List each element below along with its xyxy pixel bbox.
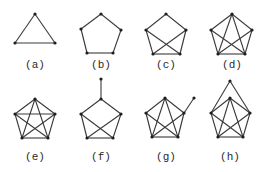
graph-vertex (46, 136, 49, 139)
graph-edge (211, 113, 218, 137)
graph-vertex (99, 97, 102, 100)
graph-vertex (184, 28, 187, 31)
panel-label-f: (f) (91, 151, 111, 163)
graph-vertex (33, 97, 36, 100)
graph-vertex (228, 79, 231, 82)
edges-f (81, 79, 121, 138)
graph-vertex (13, 41, 16, 44)
panel-label-b: (b) (91, 59, 111, 71)
vertices-e (13, 97, 56, 139)
graph-vertex (111, 51, 114, 54)
vertices-a (13, 12, 56, 44)
graph-vertex (119, 28, 122, 31)
graph-edge (113, 114, 121, 138)
panel-g: (g) (144, 96, 195, 163)
panel-label-h: (h) (220, 151, 240, 163)
graph-vertex (216, 135, 219, 138)
graph-vertex (119, 112, 122, 115)
panel-label-g: (g) (156, 151, 176, 163)
graph-edge (22, 114, 55, 138)
graph-edge (166, 14, 186, 30)
panel-d: (d) (209, 12, 253, 71)
graph-edge (230, 98, 243, 137)
graph-edge (48, 114, 55, 138)
panel-h: (h) (209, 79, 251, 163)
graph-vertex (85, 136, 88, 139)
graph-vertex (53, 112, 56, 115)
graph-vertex (228, 96, 231, 99)
graph-vertex (99, 77, 102, 80)
graph-vertex (13, 112, 16, 115)
graph-edge (211, 30, 245, 54)
graph-vertex (99, 12, 102, 15)
graph-vertex (33, 12, 36, 15)
graph-vertex (182, 111, 185, 114)
graph-vertex (150, 135, 153, 138)
graph-vertex (111, 136, 114, 139)
graph-figure: (a) (b) (c) (d) (e) (f) (0, 0, 267, 172)
graph-edge (15, 14, 35, 43)
graph-vertex (85, 51, 88, 54)
edges-a (15, 14, 55, 43)
graph-vertex (216, 52, 219, 55)
graph-vertex (151, 52, 154, 55)
graph-vertex (243, 52, 246, 55)
graph-vertex (163, 96, 166, 99)
panel-a: (a) (13, 12, 56, 71)
graph-vertex (79, 112, 82, 115)
graph-edge (146, 14, 166, 30)
graph-vertex (250, 28, 253, 31)
graph-vertex (53, 41, 56, 44)
graph-edge (81, 29, 87, 53)
graph-edge (152, 98, 165, 137)
graph-edge (218, 113, 250, 137)
graph-vertex (209, 111, 212, 114)
graph-edge (35, 14, 55, 43)
graph-vertex (192, 96, 195, 99)
panel-e: (e) (13, 97, 56, 163)
edges-g (146, 98, 194, 137)
panel-label-a: (a) (25, 59, 45, 71)
graph-edge (113, 30, 121, 53)
edges-c (146, 14, 186, 54)
panel-c: (c) (144, 12, 187, 71)
graph-vertex (164, 12, 167, 15)
graph-edge (15, 114, 22, 138)
graph-vertex (144, 28, 147, 31)
graph-vertex (144, 111, 147, 114)
edges-d (211, 14, 252, 54)
graph-edge (243, 113, 250, 137)
panel-label-c: (c) (156, 59, 176, 71)
graph-edge (87, 114, 121, 138)
graph-edge (81, 14, 101, 29)
graph-vertex (230, 12, 233, 15)
graph-edge (218, 98, 230, 137)
graph-edge (101, 99, 121, 114)
panel-f: (f) (79, 77, 122, 163)
edges-b (81, 14, 121, 53)
graph-vertex (248, 111, 251, 114)
graph-vertex (20, 136, 23, 139)
edges-h (211, 81, 250, 137)
graph-edge (35, 99, 48, 138)
graph-vertex (209, 28, 212, 31)
graph-edge (15, 114, 48, 138)
graph-figure-svg: (a) (b) (c) (d) (e) (f) (0, 0, 267, 172)
graph-vertex (241, 135, 244, 138)
graph-vertex (178, 52, 181, 55)
graph-edge (81, 99, 101, 114)
graph-edge (232, 14, 245, 54)
graph-edge (184, 98, 194, 113)
graph-edge (101, 14, 121, 30)
graph-edge (211, 113, 243, 137)
graph-edge (218, 30, 252, 54)
graph-edge (146, 30, 180, 54)
graph-vertex (79, 27, 82, 30)
panel-b: (b) (79, 12, 122, 71)
edges-e (15, 99, 55, 138)
graph-edge (22, 99, 35, 138)
panel-label-d: (d) (222, 59, 242, 71)
graph-vertex (176, 135, 179, 138)
graph-edge (165, 98, 178, 137)
panel-label-e: (e) (25, 151, 45, 163)
